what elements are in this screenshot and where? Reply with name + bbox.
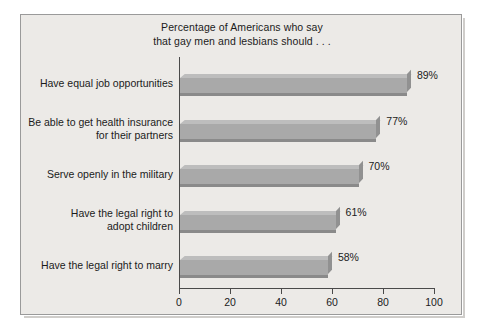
- bar-side-face: [328, 252, 332, 274]
- bar: [180, 74, 407, 96]
- x-tick-40: [281, 289, 282, 294]
- category-label: Have the legal right to marry: [3, 259, 173, 272]
- bar: [180, 165, 359, 187]
- bar-side-face: [376, 115, 380, 137]
- figure-drop-shadow-bottom: [24, 316, 465, 318]
- bar-side-face: [407, 70, 411, 92]
- x-tick-label-20: 20: [224, 296, 236, 308]
- chart-figure: Percentage of Americans who say that gay…: [20, 14, 462, 315]
- plot-area: 020406080100 Have equal job opportunitie…: [21, 15, 463, 316]
- figure-drop-shadow-right: [463, 18, 465, 318]
- bar: [180, 120, 376, 142]
- bar-front-face: [180, 78, 407, 96]
- bar-front-face: [180, 215, 336, 233]
- bar-row: Serve openly in the military70%: [21, 154, 463, 198]
- bar-row: Have the legal right to marry58%: [21, 245, 463, 289]
- bar-value-label: 58%: [338, 251, 359, 263]
- bar-front-face: [180, 124, 376, 142]
- x-tick-0: [179, 289, 180, 294]
- x-tick-label-100: 100: [425, 296, 443, 308]
- x-tick-label-60: 60: [326, 296, 338, 308]
- x-tick-label-0: 0: [176, 296, 182, 308]
- category-label: Have the legal right to adopt children: [3, 207, 173, 233]
- bar-value-label: 61%: [346, 206, 367, 218]
- bar-row: Be able to get health insurance for thei…: [21, 109, 463, 153]
- bar-front-face: [180, 169, 359, 187]
- category-label: Have equal job opportunities: [3, 77, 173, 90]
- bar-value-label: 77%: [386, 115, 407, 127]
- bar-value-label: 70%: [369, 160, 390, 172]
- x-tick-label-80: 80: [377, 296, 389, 308]
- bar-front-face: [180, 260, 328, 278]
- x-tick-100: [434, 289, 435, 294]
- bar: [180, 256, 328, 278]
- bar: [180, 211, 336, 233]
- x-tick-80: [383, 289, 384, 294]
- bar-value-label: 89%: [417, 69, 438, 81]
- x-tick-20: [230, 289, 231, 294]
- bar-side-face: [359, 161, 363, 183]
- bar-row: Have equal job opportunities89%: [21, 63, 463, 107]
- x-tick-60: [332, 289, 333, 294]
- bar-side-face: [336, 206, 340, 228]
- category-label: Serve openly in the military: [3, 168, 173, 181]
- bar-row: Have the legal right to adopt children61…: [21, 200, 463, 244]
- x-tick-label-40: 40: [275, 296, 287, 308]
- category-label: Be able to get health insurance for thei…: [3, 116, 173, 142]
